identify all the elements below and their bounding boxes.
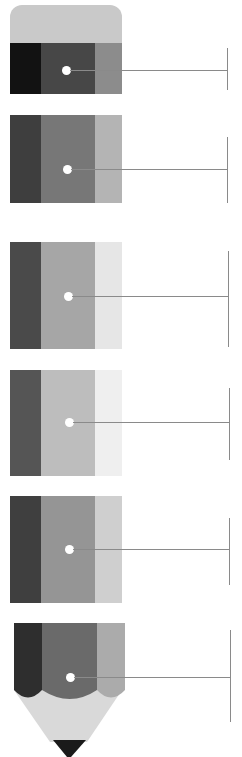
pencil-lead-tip: [53, 740, 86, 757]
segment-6-label-bracket: [230, 630, 231, 722]
segment-6-shade-dark: [14, 623, 42, 698]
segment-6-connector-line: [74, 677, 230, 678]
segment-6-shade-mid: [42, 623, 97, 699]
segment-6-shade-light: [97, 623, 125, 698]
pencil-tip-graphic: [0, 0, 242, 757]
